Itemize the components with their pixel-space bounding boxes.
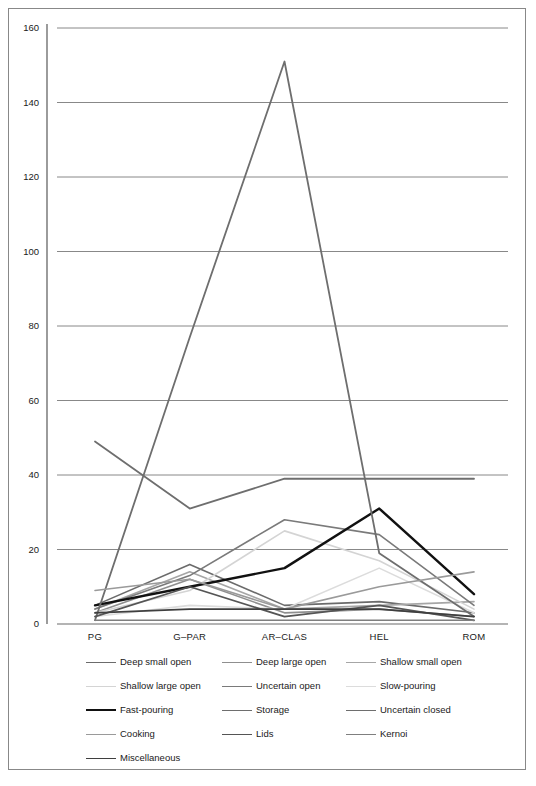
legend-label: Shallow large open [120, 681, 201, 691]
legend-item[interactable]: Uncertain closed [346, 698, 496, 722]
legend-label: Miscellaneous [120, 753, 180, 763]
legend-swatch-icon [86, 686, 116, 687]
series-lines-group [95, 62, 474, 621]
legend-swatch-icon [346, 710, 376, 711]
x-tick-label: ROM [429, 632, 519, 642]
legend-label: Lids [256, 729, 273, 739]
legend-item[interactable]: Uncertain open [222, 674, 346, 698]
legend-swatch-icon [86, 758, 116, 759]
legend-swatch-icon [346, 686, 376, 687]
legend-item[interactable]: Deep small open [86, 650, 222, 674]
legend-row: Shallow large openUncertain openSlow-pou… [86, 674, 506, 698]
y-tick-label: 100 [5, 247, 39, 257]
y-tick-label: 0 [5, 619, 39, 629]
legend-row: Deep small openDeep large openShallow sm… [86, 650, 506, 674]
y-tick-label: 60 [5, 396, 39, 406]
legend-item[interactable]: Miscellaneous [86, 746, 222, 770]
legend-item[interactable]: Lids [222, 722, 346, 746]
legend-row: CookingLidsKernoi [86, 722, 506, 746]
legend-label: Uncertain open [256, 681, 320, 691]
y-tick-label: 140 [5, 98, 39, 108]
y-tick-label: 20 [5, 545, 39, 555]
x-tick-label: PG [50, 632, 140, 642]
legend-swatch-icon [346, 734, 376, 735]
series-line [95, 509, 474, 606]
legend-swatch-icon [222, 686, 252, 687]
legend-swatch-icon [222, 710, 252, 711]
y-tick-label: 160 [5, 23, 39, 33]
series-line [95, 520, 474, 609]
legend-row: Fast-pouringStorageUncertain closed [86, 698, 506, 722]
legend-row: Miscellaneous [86, 746, 506, 770]
legend-label: Deep large open [256, 657, 326, 667]
y-tick-label: 80 [5, 321, 39, 331]
legend-label: Slow-pouring [380, 681, 435, 691]
legend-item[interactable]: Shallow large open [86, 674, 222, 698]
legend-item[interactable]: Deep large open [222, 650, 346, 674]
legend-swatch-icon [222, 662, 252, 663]
legend-item[interactable]: Fast-pouring [86, 698, 222, 722]
y-tick-label: 120 [5, 172, 39, 182]
legend-label: Cooking [120, 729, 155, 739]
legend-swatch-icon [346, 662, 376, 663]
y-tick-label: 40 [5, 470, 39, 480]
series-line [95, 62, 474, 621]
legend-label: Uncertain closed [380, 705, 451, 715]
chart-legend: Deep small openDeep large openShallow sm… [86, 650, 506, 770]
legend-swatch-icon [86, 662, 116, 663]
legend-item[interactable]: Cooking [86, 722, 222, 746]
series-line [95, 572, 474, 609]
legend-label: Kernoi [380, 729, 407, 739]
legend-label: Shallow small open [380, 657, 462, 667]
legend-item[interactable]: Slow-pouring [346, 674, 496, 698]
legend-item[interactable]: Kernoi [346, 722, 496, 746]
legend-item[interactable]: Shallow small open [346, 650, 496, 674]
x-tick-label: AR–CLAS [240, 632, 330, 642]
legend-label: Deep small open [120, 657, 191, 667]
legend-swatch-icon [222, 734, 252, 735]
x-tick-label: HEL [334, 632, 424, 642]
chart-container: 160140120100806040200 PGG–PARAR–CLASHELR… [0, 0, 536, 786]
legend-swatch-icon [86, 709, 116, 711]
x-tick-label: G–PAR [145, 632, 235, 642]
gridlines-group [57, 28, 508, 624]
legend-swatch-icon [86, 734, 116, 735]
legend-label: Storage [256, 705, 289, 715]
legend-item[interactable]: Storage [222, 698, 346, 722]
legend-label: Fast-pouring [120, 705, 173, 715]
